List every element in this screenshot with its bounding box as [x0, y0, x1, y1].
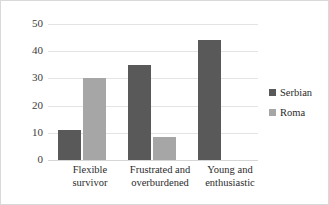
bar-group [118, 24, 188, 160]
bar-serbian [58, 130, 81, 160]
y-axis-tick-label: 0 [3, 154, 43, 165]
plot-area [48, 24, 258, 160]
bar-group [48, 24, 118, 160]
bar-group [188, 24, 258, 160]
bar-serbian [198, 40, 221, 160]
y-axis-tick-label: 30 [3, 72, 43, 83]
bar-roma [83, 78, 106, 160]
legend-swatch-icon [269, 109, 276, 116]
bar-serbian [128, 65, 151, 160]
legend-swatch-icon [269, 89, 276, 96]
legend-item-roma[interactable]: Roma [269, 107, 312, 118]
legend-item-serbian[interactable]: Serbian [269, 87, 312, 98]
x-axis-category-label: Young andenthusiastic [187, 164, 273, 189]
y-axis-tick-label: 10 [3, 127, 43, 138]
bar-chart-figure: 01020304050 FlexiblesurvivorFrustrated a… [0, 0, 329, 205]
legend-label: Serbian [280, 87, 312, 98]
gridline [48, 160, 258, 161]
y-axis-tick-label: 20 [3, 100, 43, 111]
y-axis-tick-label: 40 [3, 45, 43, 56]
category-label-line: Young and [187, 164, 273, 177]
category-label-line: enthusiastic [187, 177, 273, 190]
chart-legend: SerbianRoma [269, 87, 312, 127]
bar-roma [153, 137, 176, 160]
legend-label: Roma [280, 107, 305, 118]
y-axis-tick-label: 50 [3, 18, 43, 29]
